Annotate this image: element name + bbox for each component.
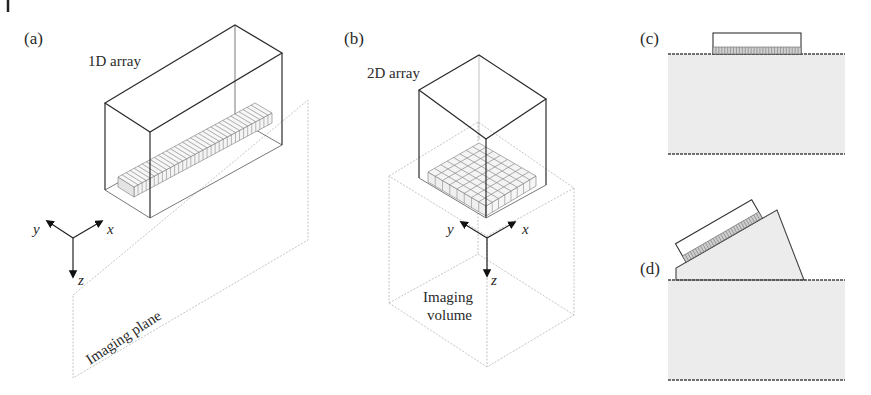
panel-a-label: (a) xyxy=(24,29,43,48)
1d-array-elements xyxy=(118,103,272,197)
axis-x-label-b: x xyxy=(521,221,529,237)
array-strip-c xyxy=(713,47,801,54)
2d-array-elements xyxy=(428,143,536,216)
medium-d xyxy=(668,280,845,380)
panel-c-label: (c) xyxy=(640,29,659,48)
axis-y-label: y xyxy=(31,221,40,237)
medium-c xyxy=(668,54,845,154)
imaging-volume-label-2: volume xyxy=(427,307,472,323)
axis-z-label-b: z xyxy=(490,272,497,288)
panel-b-label: (b) xyxy=(344,29,364,48)
2d-array-label: 2D array xyxy=(367,65,420,81)
panel-a: (a) 1D array y x z Imaging plane xyxy=(24,25,308,378)
panel-b: (b) 2D array xyxy=(344,29,574,367)
axis-z-label: z xyxy=(77,272,84,288)
axes-a: y x z xyxy=(31,221,114,288)
panel-c: (c) xyxy=(640,29,845,154)
imaging-plane-label: Imaging plane xyxy=(83,307,164,368)
imaging-volume-label-1: Imaging xyxy=(423,289,473,305)
axes-b: y x z xyxy=(445,221,529,288)
ultrasound-array-diagram: (a) 1D array y x z Imaging plane xyxy=(0,0,871,395)
1d-array-label: 1D array xyxy=(88,53,141,69)
axis-x-label: x xyxy=(106,221,114,237)
panel-d-label: (d) xyxy=(640,259,660,278)
panel-d: (d) xyxy=(640,200,845,380)
axis-y-label-b: y xyxy=(445,221,454,237)
